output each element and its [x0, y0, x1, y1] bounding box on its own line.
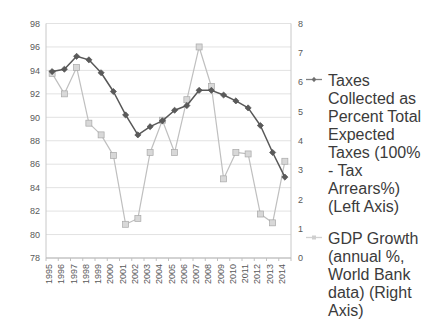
- data-point-marker: [221, 176, 227, 182]
- right-axis-tick-label: 4: [298, 136, 303, 146]
- data-point-marker: [282, 158, 288, 164]
- data-point-marker: [221, 92, 227, 98]
- data-point-marker: [245, 151, 251, 157]
- legend-label-taxes: Taxes Collected as Percent Total Expecte…: [328, 72, 428, 216]
- x-axis-year-label: 1999: [93, 264, 103, 284]
- series-gdp-growth: [49, 44, 288, 227]
- left-axis-tick-label: 94: [30, 66, 40, 76]
- left-axis-tick-label: 98: [30, 19, 40, 29]
- series-taxes-collected: [49, 53, 288, 180]
- data-point-marker: [147, 149, 153, 155]
- series-line: [52, 47, 285, 224]
- data-point-marker: [257, 211, 263, 217]
- x-axis-year-label: 1996: [56, 264, 66, 284]
- left-axis-tick-label: 82: [30, 206, 40, 216]
- x-axis-year-label: 2010: [228, 264, 238, 284]
- legend-item-taxes: Taxes Collected as Percent Total Expecte…: [306, 72, 428, 216]
- right-axis-tick-label: 8: [298, 19, 303, 29]
- x-axis-year-label: 2000: [105, 264, 115, 284]
- data-point-marker: [123, 221, 129, 227]
- data-point-marker: [74, 64, 80, 70]
- x-axis-year-label: 2006: [179, 264, 189, 284]
- legend-item-gdp: GDP Growth (annual %, World Bank data) (…: [306, 230, 428, 320]
- x-axis-year-label: 1997: [69, 264, 79, 284]
- right-axis-tick-label: 2: [298, 195, 303, 205]
- x-axis-year-label: 1998: [81, 264, 91, 284]
- data-point-marker: [270, 149, 276, 155]
- right-axis-tick-label: 0: [298, 253, 303, 263]
- x-axis-year-label: 2008: [203, 264, 213, 284]
- x-axis-year-label: 2009: [216, 264, 226, 284]
- right-axis-tick-label: 1: [298, 224, 303, 234]
- data-point-marker: [233, 98, 239, 104]
- left-axis-tick-label: 78: [30, 253, 40, 263]
- data-point-marker: [172, 149, 178, 155]
- x-axis-year-label: 2014: [277, 264, 287, 284]
- legend-label-gdp: GDP Growth (annual %, World Bank data) (…: [328, 230, 428, 320]
- x-axis-year-label: 2007: [191, 264, 201, 284]
- plot-frame: [46, 24, 291, 262]
- data-point-marker: [135, 215, 141, 221]
- left-axis-tick-label: 80: [30, 230, 40, 240]
- chart-legend: Taxes Collected as Percent Total Expecte…: [306, 72, 428, 323]
- x-axis-year-label: 2005: [167, 264, 177, 284]
- left-axis-tick-label: 88: [30, 136, 40, 146]
- x-axis-year-label: 2011: [240, 264, 250, 283]
- x-axis-year-label: 2002: [130, 264, 140, 284]
- data-point-marker: [61, 91, 67, 97]
- data-point-marker: [86, 120, 92, 126]
- left-axis-tick-label: 84: [30, 183, 40, 193]
- right-axis-tick-label: 7: [298, 48, 303, 58]
- left-axis-tick-label: 92: [30, 89, 40, 99]
- left-axis-tick-label: 90: [30, 113, 40, 123]
- left-axis-tick-labels: 7880828486889092949698: [30, 19, 40, 264]
- x-axis-year-label: 2013: [265, 264, 275, 284]
- x-axis-year-label: 2003: [142, 264, 152, 284]
- right-axis-tick-labels: 012345678: [298, 19, 303, 264]
- left-axis-tick-label: 96: [30, 42, 40, 52]
- right-axis-tick-label: 5: [298, 107, 303, 117]
- data-point-marker: [98, 132, 104, 138]
- data-point-marker: [270, 220, 276, 226]
- legend-swatch-taxes-diamond-icon: [306, 76, 322, 83]
- data-point-marker: [196, 44, 202, 50]
- x-axis-year-label: 2012: [252, 264, 262, 284]
- data-point-marker: [233, 149, 239, 155]
- left-axis-tick-label: 86: [30, 159, 40, 169]
- data-point-marker: [110, 152, 116, 158]
- x-axis-year-label: 2004: [154, 264, 164, 284]
- x-axis-tick-labels: 1995199619971998199920002001200220032004…: [44, 264, 287, 284]
- x-axis-year-label: 2001: [118, 264, 128, 284]
- x-axis-year-label: 1995: [44, 264, 54, 284]
- right-axis-tick-label: 6: [298, 77, 303, 87]
- legend-swatch-gdp-square-icon: [306, 234, 322, 241]
- right-axis-tick-label: 3: [298, 165, 303, 175]
